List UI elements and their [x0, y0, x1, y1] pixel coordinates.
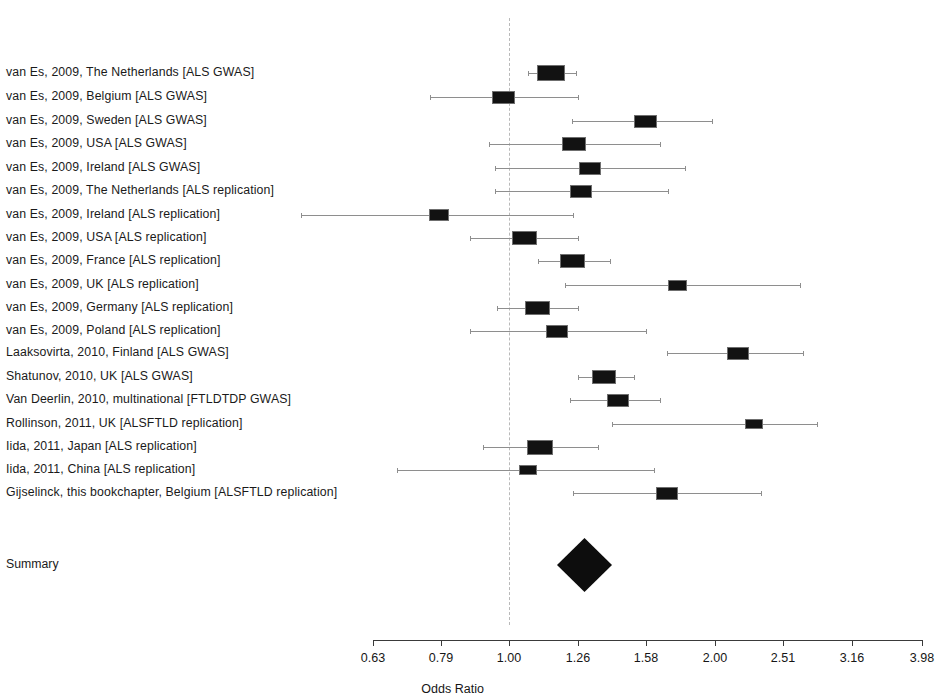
- confidence-interval-cap: [598, 445, 599, 450]
- reference-line: [509, 18, 510, 625]
- effect-estimate-marker: [727, 347, 749, 360]
- x-axis-line: [373, 640, 922, 641]
- confidence-interval-cap: [578, 95, 579, 100]
- effect-estimate-marker: [546, 325, 568, 338]
- x-axis-tick: [783, 640, 784, 646]
- study-label: Iida, 2011, China [ALS replication]: [6, 463, 195, 476]
- confidence-interval-cap: [576, 71, 577, 76]
- x-axis-tick-label: 2.00: [703, 651, 727, 665]
- confidence-interval-cap: [612, 422, 613, 427]
- study-label: Shatunov, 2010, UK [ALS GWAS]: [6, 370, 193, 383]
- confidence-interval-cap: [572, 119, 573, 124]
- confidence-interval-cap: [489, 142, 490, 147]
- x-axis-tick-label: 1.58: [634, 651, 658, 665]
- x-axis-tick-label: 1.26: [566, 651, 590, 665]
- confidence-interval-cap: [573, 213, 574, 218]
- confidence-interval-cap: [712, 119, 713, 124]
- x-axis-tick-label: 3.98: [910, 651, 934, 665]
- confidence-interval-cap: [573, 491, 574, 496]
- confidence-interval-cap: [578, 375, 579, 380]
- effect-estimate-marker: [607, 394, 629, 407]
- effect-estimate-marker: [519, 465, 537, 475]
- x-axis-tick: [373, 640, 374, 646]
- study-label: van Es, 2009, Sweden [ALS GWAS]: [6, 114, 207, 127]
- confidence-interval-cap: [817, 422, 818, 427]
- study-label: Rollinson, 2011, UK [ALSFTLD replication…: [6, 417, 243, 430]
- confidence-interval-cap: [538, 259, 539, 264]
- confidence-interval-cap: [528, 71, 529, 76]
- study-label: van Es, 2009, France [ALS replication]: [6, 254, 221, 267]
- study-label: van Es, 2009, USA [ALS replication]: [6, 231, 206, 244]
- summary-label: Summary: [6, 558, 59, 571]
- x-axis-tick-label: 1.00: [497, 651, 521, 665]
- confidence-interval-cap: [660, 142, 661, 147]
- x-axis-tick: [646, 640, 647, 646]
- effect-estimate-marker: [579, 162, 601, 175]
- confidence-interval-line: [612, 424, 817, 425]
- effect-estimate-marker: [560, 254, 585, 268]
- effect-estimate-marker: [537, 65, 565, 81]
- effect-estimate-marker: [525, 301, 550, 315]
- confidence-interval-cap: [800, 283, 801, 288]
- confidence-interval-cap: [660, 398, 661, 403]
- confidence-interval-cap: [654, 468, 655, 473]
- confidence-interval-cap: [495, 189, 496, 194]
- summary-diamond: [557, 538, 612, 592]
- confidence-interval-cap: [803, 351, 804, 356]
- confidence-interval-cap: [570, 398, 571, 403]
- effect-estimate-marker: [527, 440, 553, 455]
- confidence-interval-cap: [610, 259, 611, 264]
- effect-estimate-marker: [668, 280, 687, 291]
- confidence-interval-cap: [578, 306, 579, 311]
- confidence-interval-cap: [397, 468, 398, 473]
- x-axis-tick: [441, 640, 442, 646]
- x-axis-title: Odds Ratio: [421, 682, 484, 696]
- x-axis-tick: [715, 640, 716, 646]
- confidence-interval-cap: [495, 166, 496, 171]
- x-axis-tick: [578, 640, 579, 646]
- confidence-interval-cap: [497, 306, 498, 311]
- forest-plot-figure: van Es, 2009, The Netherlands [ALS GWAS]…: [0, 0, 937, 698]
- study-label: Iida, 2011, Japan [ALS replication]: [6, 440, 197, 453]
- x-axis-tick: [852, 640, 853, 646]
- effect-estimate-marker: [562, 137, 586, 151]
- confidence-interval-cap: [301, 213, 302, 218]
- confidence-interval-cap: [430, 95, 431, 100]
- x-axis-tick: [509, 640, 510, 646]
- effect-estimate-marker: [429, 209, 449, 221]
- effect-estimate-marker: [512, 231, 537, 245]
- x-axis-tick-label: 0.63: [361, 651, 385, 665]
- effect-estimate-marker: [745, 419, 763, 429]
- effect-estimate-marker: [592, 370, 616, 384]
- study-label: Van Deerlin, 2010, multinational [FTLDTD…: [6, 393, 291, 406]
- study-label: van Es, 2009, Germany [ALS replication]: [6, 301, 233, 314]
- effect-estimate-marker: [492, 91, 515, 104]
- x-axis-tick-label: 3.16: [840, 651, 864, 665]
- study-label: Laaksovirta, 2010, Finland [ALS GWAS]: [6, 346, 229, 359]
- confidence-interval-cap: [470, 329, 471, 334]
- x-axis-tick-label: 0.79: [429, 651, 453, 665]
- effect-estimate-marker: [570, 185, 592, 198]
- effect-estimate-marker: [656, 487, 678, 500]
- study-label: van Es, 2009, Belgium [ALS GWAS]: [6, 90, 207, 103]
- effect-estimate-marker: [634, 115, 657, 128]
- study-label: van Es, 2009, The Netherlands [ALS repli…: [6, 184, 274, 197]
- confidence-interval-cap: [685, 166, 686, 171]
- study-label: Gijselinck, this bookchapter, Belgium [A…: [6, 486, 337, 499]
- study-label: van Es, 2009, Poland [ALS replication]: [6, 324, 221, 337]
- confidence-interval-cap: [565, 283, 566, 288]
- confidence-interval-cap: [483, 445, 484, 450]
- confidence-interval-cap: [578, 236, 579, 241]
- confidence-interval-cap: [634, 375, 635, 380]
- study-label: van Es, 2009, Ireland [ALS GWAS]: [6, 161, 200, 174]
- confidence-interval-cap: [470, 236, 471, 241]
- confidence-interval-cap: [761, 491, 762, 496]
- x-axis-tick-label: 2.51: [771, 651, 795, 665]
- x-axis-tick: [922, 640, 923, 646]
- confidence-interval-cap: [668, 189, 669, 194]
- study-label: van Es, 2009, UK [ALS replication]: [6, 278, 199, 291]
- study-label: van Es, 2009, USA [ALS GWAS]: [6, 137, 187, 150]
- study-label: van Es, 2009, The Netherlands [ALS GWAS]: [6, 66, 254, 79]
- confidence-interval-cap: [646, 329, 647, 334]
- confidence-interval-cap: [667, 351, 668, 356]
